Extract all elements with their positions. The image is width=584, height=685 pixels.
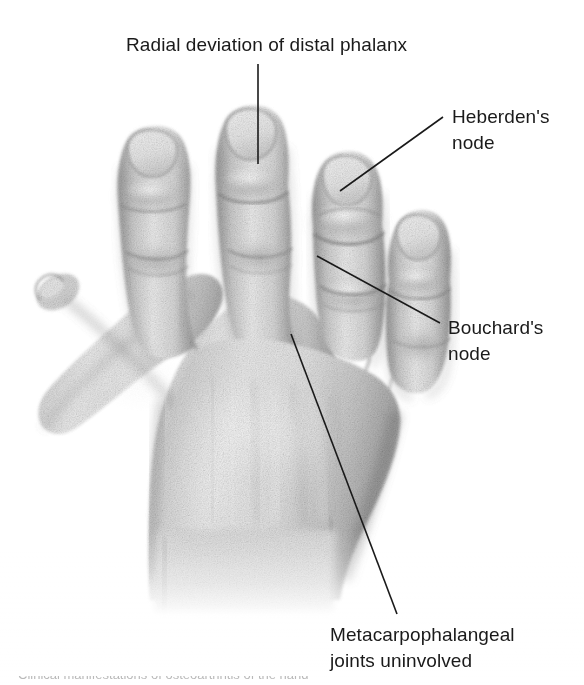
figure-osteoarthritis-hand: Radial deviation of distal phalanx Heber…: [0, 0, 584, 685]
bottom-caption-text: Clinical manifestations of osteoarthriti…: [18, 676, 309, 682]
bottom-caption-clipped: Clinical manifestations of osteoarthriti…: [0, 676, 584, 685]
callout-heberden-node-label: Heberden's node: [452, 104, 550, 156]
callout-metacarpophalangeal-label: Metacarpophalangeal joints uninvolved: [330, 622, 515, 674]
callout-radial-deviation-label: Radial deviation of distal phalanx: [126, 32, 407, 58]
callout-bouchard-node-label: Bouchard's node: [448, 315, 543, 367]
